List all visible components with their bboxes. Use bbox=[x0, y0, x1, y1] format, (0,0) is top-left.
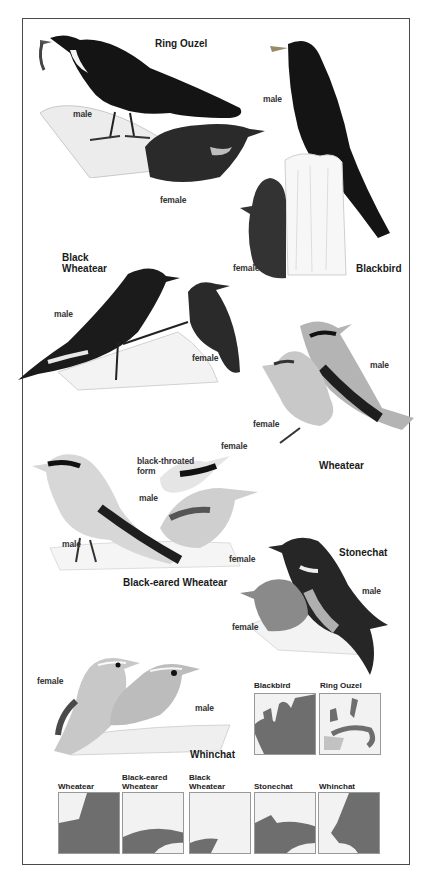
range-map-black-wheatear bbox=[189, 792, 251, 854]
bew-male-label: male bbox=[62, 539, 81, 549]
range-map-blackbird bbox=[254, 693, 316, 755]
whinchat-male-label: male bbox=[195, 703, 214, 713]
ring-ouzel-male-label: male bbox=[73, 109, 92, 119]
map-label-ring-ouzel: Ring Ouzel bbox=[320, 681, 362, 690]
whinchat-title: Whinchat bbox=[190, 749, 235, 760]
black-wheatear-male-label: male bbox=[54, 309, 73, 319]
ring-ouzel-female-label: female bbox=[160, 195, 186, 205]
blackbird-male-label: male bbox=[263, 94, 282, 104]
ring-ouzel-title: Ring Ouzel bbox=[155, 38, 207, 49]
stonechat-title: Stonechat bbox=[339, 547, 387, 558]
black-eared-wheatear-title: Black-eared Wheatear bbox=[123, 577, 228, 588]
bew-bt-female-label: female bbox=[221, 441, 247, 451]
bew-female-label: female bbox=[229, 554, 255, 564]
black-wheatear-illustration bbox=[18, 262, 248, 392]
wheatear-title: Wheatear bbox=[319, 460, 364, 471]
map-label-whinchat: Whinchat bbox=[319, 782, 355, 791]
map-label-wheatear: Wheatear bbox=[58, 782, 94, 791]
bew-bt-male-label: male bbox=[139, 493, 158, 503]
range-map-ring-ouzel bbox=[319, 693, 381, 755]
black-wheatear-title: Black Wheatear bbox=[62, 252, 107, 274]
map-label-black-wheatear: Black Wheatear bbox=[189, 773, 225, 791]
stonechat-female-label: female bbox=[232, 622, 258, 632]
range-map-black-eared-wheatear bbox=[122, 792, 184, 854]
tree-stump-illustration bbox=[280, 150, 360, 280]
map-label-blackbird: Blackbird bbox=[254, 681, 290, 690]
whinchat-female-label: female bbox=[37, 676, 63, 686]
map-label-stonechat: Stonechat bbox=[254, 782, 293, 791]
blackbird-title: Blackbird bbox=[356, 263, 402, 274]
wheatear-female-label: female bbox=[253, 419, 279, 429]
stonechat-male-label: male bbox=[362, 586, 381, 596]
blackbird-female-label: female bbox=[233, 263, 259, 273]
wheatear-illustration bbox=[260, 318, 420, 453]
bew-black-throated-form-label: black-throated form bbox=[137, 456, 194, 476]
black-wheatear-female-label: female bbox=[192, 353, 218, 363]
range-map-wheatear bbox=[58, 792, 120, 854]
map-label-black-eared-wheatear: Black-eared Wheatear bbox=[122, 773, 167, 791]
range-map-stonechat bbox=[254, 792, 316, 854]
wheatear-male-label: male bbox=[370, 360, 389, 370]
range-map-whinchat bbox=[318, 792, 380, 854]
